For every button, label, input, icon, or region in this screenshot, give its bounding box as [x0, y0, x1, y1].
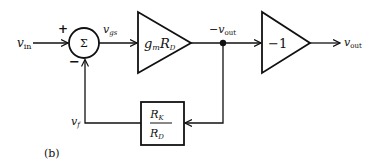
feedback-numerator: RK [149, 108, 164, 122]
feedback-denominator: RD [149, 127, 164, 141]
vgs-label: vgs [103, 23, 118, 37]
sigma-symbol: Σ [80, 37, 88, 50]
vf-label: vf [71, 115, 81, 129]
vout-label: vout [344, 36, 362, 50]
feedback-to-sum-path [85, 60, 141, 124]
neg-vout-label: −vout [209, 23, 236, 37]
plus-sign: + [58, 22, 68, 36]
feedback-return-path [185, 43, 223, 123]
figure-label: (b) [44, 147, 60, 160]
gain-gmRD-label: gmRD [144, 36, 176, 52]
inverter-gain-label: −1 [268, 36, 287, 51]
vin-label: vin [17, 36, 32, 51]
block-diagram: vin + − Σ vgs gmRD −vout −1 vout RK RD v… [0, 0, 367, 163]
